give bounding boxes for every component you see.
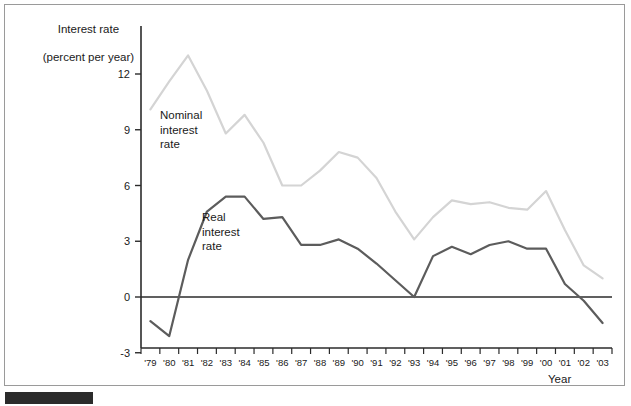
x-tick-label: '99	[521, 357, 533, 368]
x-tick-label: '80	[163, 357, 175, 368]
x-tick-label: '95	[446, 357, 458, 368]
x-tick-label: '83	[220, 357, 232, 368]
x-tick-label: '85	[257, 357, 269, 368]
y-axis-title: Interest rate (percent per year)	[22, 8, 142, 78]
y-axis-title-line2: (percent per year)	[43, 51, 134, 63]
real-label-line1: Real	[202, 211, 226, 223]
x-tick-label: '94	[427, 357, 439, 368]
x-tick-label: '97	[483, 357, 495, 368]
y-tick-label: -3	[120, 347, 130, 359]
nominal-label-line3: rate	[160, 138, 180, 150]
y-tick-label: 6	[124, 180, 130, 192]
chart-page: 129630-3 '79'80'81'82'83'84'85'86'87'88'…	[0, 0, 631, 406]
nominal-label-line2: interest	[160, 124, 198, 136]
series-annotation-real: Real interest rate	[202, 210, 240, 254]
y-axis-title-line1: Interest rate	[58, 23, 119, 35]
y-tick-label: 9	[124, 124, 130, 136]
real-label-line3: rate	[202, 240, 222, 252]
y-tick-label: 0	[124, 291, 130, 303]
x-tick-label: '91	[370, 357, 382, 368]
x-axis-ticks: '79'80'81'82'83'84'85'86'87'88'89'90'91'…	[141, 348, 612, 368]
real-label-line2: interest	[202, 226, 240, 238]
x-tick-label: '86	[276, 357, 288, 368]
nominal-label-line1: Nominal	[160, 109, 202, 121]
x-tick-label: '03	[596, 357, 608, 368]
x-tick-label: '84	[238, 357, 250, 368]
x-tick-label: '00	[540, 357, 552, 368]
x-axis-title: Year	[548, 372, 571, 386]
x-tick-label: '90	[351, 357, 363, 368]
x-tick-label: '79	[144, 357, 156, 368]
x-tick-label: '01	[559, 357, 571, 368]
x-tick-label: '89	[333, 357, 345, 368]
x-tick-label: '96	[465, 357, 477, 368]
y-tick-label: 3	[124, 235, 130, 247]
x-tick-label: '88	[314, 357, 326, 368]
x-tick-label: '87	[295, 357, 307, 368]
x-tick-label: '81	[182, 357, 194, 368]
x-tick-label: '98	[502, 357, 514, 368]
series-annotation-nominal: Nominal interest rate	[160, 108, 202, 152]
x-tick-label: '02	[578, 357, 590, 368]
x-tick-label: '82	[201, 357, 213, 368]
bottom-rule-bar	[5, 392, 93, 404]
x-tick-label: '92	[389, 357, 401, 368]
x-tick-label: '93	[408, 357, 420, 368]
y-axis-ticks: 129630-3	[118, 68, 141, 359]
